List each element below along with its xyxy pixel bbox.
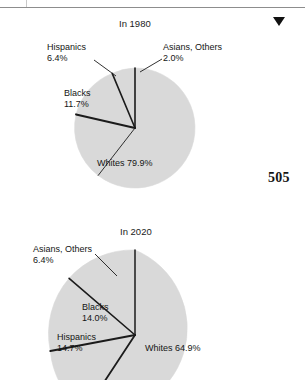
down-triangle-marker-icon bbox=[273, 17, 285, 26]
pie-graphic-2020 bbox=[0, 218, 260, 380]
callout-whites-2020: Whites 64.9% bbox=[145, 343, 201, 354]
callout-blacks-2020: Blacks 14.0% bbox=[82, 302, 109, 324]
callout-asians-2020-name: Asians, Others bbox=[33, 244, 92, 254]
callout-asians-2020-pct: 6.4% bbox=[33, 255, 92, 266]
callout-blacks-2020-name: Blacks bbox=[82, 302, 109, 312]
callout-blacks-2020-pct: 14.0% bbox=[82, 313, 109, 324]
callout-hispanics-1980-name: Hispanics bbox=[47, 42, 86, 52]
callout-asians-1980-pct: 2.0% bbox=[163, 53, 222, 64]
callout-hispanics-1980-pct: 6.4% bbox=[47, 53, 86, 64]
header-rule bbox=[0, 7, 305, 8]
callout-asians-1980: Asians, Others 2.0% bbox=[163, 42, 222, 64]
header-tick bbox=[26, 0, 27, 7]
callout-blacks-1980: Blacks 11.7% bbox=[64, 88, 91, 110]
pie-chart-2020: In 2020 A bbox=[0, 218, 260, 380]
callout-whites-1980: Whites 79.9% bbox=[97, 158, 153, 169]
callout-hispanics-1980: Hispanics 6.4% bbox=[47, 42, 86, 64]
textbook-page: 505 In 1980 bbox=[0, 0, 305, 380]
callout-blacks-1980-name: Blacks bbox=[64, 88, 91, 98]
leader-hispanics-1980 bbox=[94, 60, 116, 76]
pie-chart-1980: In 1980 bbox=[0, 10, 260, 195]
callout-asians-2020: Asians, Others 6.4% bbox=[33, 244, 92, 266]
callout-asians-1980-name: Asians, Others bbox=[163, 42, 222, 52]
callout-hispanics-2020-pct: 14.7% bbox=[57, 343, 96, 354]
callout-hispanics-2020: Hispanics 14.7% bbox=[57, 332, 96, 354]
callout-blacks-1980-pct: 11.7% bbox=[64, 99, 91, 110]
callout-hispanics-2020-name: Hispanics bbox=[57, 332, 96, 342]
page-number: 505 bbox=[268, 170, 290, 186]
